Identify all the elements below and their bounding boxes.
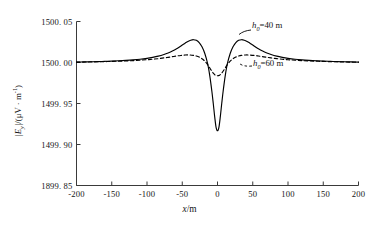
x-tick-label: 150 — [317, 189, 330, 199]
x-tick-label: -150 — [104, 189, 120, 199]
x-tick-label: -50 — [176, 189, 188, 199]
axes-group — [77, 22, 359, 186]
x-tick-label: 0 — [215, 189, 219, 199]
data-series — [77, 40, 359, 131]
x-tick-label: 200 — [352, 189, 365, 199]
leader-line-h40 — [239, 30, 251, 35]
chart-figure: 1899. 851499. 901499. 951500. 001500. 05… — [0, 0, 379, 227]
annotation-leader-lines — [239, 30, 252, 66]
y-tick-label: 1499. 90 — [41, 140, 72, 150]
annotation-h0-60: h0=60 m — [253, 58, 283, 70]
x-tick-label: 100 — [281, 189, 294, 199]
x-axis-title: x/m — [0, 204, 379, 214]
leader-line-h60 — [240, 64, 252, 66]
y-tick-label: 1500. 00 — [41, 58, 72, 68]
axis-ticks — [77, 22, 359, 186]
y-tick-label: 1499. 95 — [41, 99, 72, 109]
x-tick-label: -100 — [139, 189, 155, 199]
x-tick-label: -200 — [68, 189, 84, 199]
series-line-1 — [77, 40, 359, 131]
y-axis-title: |Ey|/(μV · m-1) — [11, 63, 25, 159]
annotation-h0-40: h0=40 m — [252, 20, 282, 32]
y-tick-label: 1500. 05 — [41, 17, 72, 27]
x-tick-label: 50 — [248, 189, 257, 199]
series-line-2 — [77, 55, 359, 76]
